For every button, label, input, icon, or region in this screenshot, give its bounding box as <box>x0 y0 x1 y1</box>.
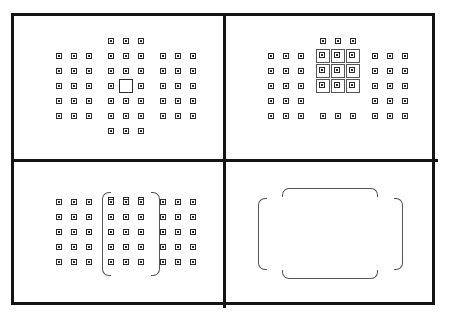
af-point-stage-bottom-left <box>14 162 223 305</box>
af-point-dot <box>71 53 77 59</box>
af-point-dot <box>56 68 62 74</box>
af-point-dot <box>56 229 62 235</box>
af-point-dot <box>334 52 340 58</box>
af-point-dot <box>160 83 166 89</box>
af-point-dot <box>175 98 181 104</box>
af-point-dot <box>349 52 355 58</box>
af-point-dot <box>71 199 77 205</box>
af-point-dot <box>71 214 77 220</box>
af-point-dot <box>320 38 326 44</box>
af-point-dot <box>86 214 92 220</box>
af-point-dot <box>138 199 144 205</box>
af-point-dot <box>123 244 129 250</box>
af-point-dot <box>190 53 196 59</box>
af-point-dot <box>175 214 181 220</box>
af-point-dot <box>402 98 408 104</box>
af-point-dot <box>190 68 196 74</box>
af-point-dot <box>298 53 304 59</box>
af-point-dot <box>71 229 77 235</box>
af-point-dot <box>190 244 196 250</box>
af-point-dot <box>283 53 289 59</box>
diagram-frame <box>11 13 435 305</box>
af-point-dot <box>160 259 166 265</box>
af-point-dot <box>138 244 144 250</box>
af-point-dot <box>86 53 92 59</box>
af-point-dot <box>175 53 181 59</box>
af-point-dot <box>71 244 77 250</box>
af-point-dot <box>372 113 378 119</box>
af-point-dot <box>138 259 144 265</box>
af-point-dot <box>160 53 166 59</box>
af-point-dot <box>175 244 181 250</box>
af-point-dot <box>320 113 326 119</box>
quadrant-wide-zone-af <box>226 162 435 305</box>
af-point-dot <box>350 113 356 119</box>
af-point-selected-box <box>316 49 330 63</box>
af-point-stage-top-right <box>226 16 435 159</box>
af-point-dot <box>190 113 196 119</box>
af-point-dot <box>160 244 166 250</box>
af-point-dot <box>160 214 166 220</box>
af-point-dot <box>86 229 92 235</box>
af-point-selected-box <box>316 79 330 93</box>
af-point-dot <box>283 113 289 119</box>
af-point-dot <box>108 38 114 44</box>
af-point-dot <box>372 83 378 89</box>
af-point-dot <box>138 83 144 89</box>
af-point-dot <box>123 53 129 59</box>
af-point-dot <box>108 113 114 119</box>
af-point-dot <box>56 113 62 119</box>
af-point-selected-box <box>316 64 330 78</box>
af-point-selected-box <box>346 64 360 78</box>
wide-zone-bracket-left <box>258 198 267 270</box>
af-point-dot <box>108 98 114 104</box>
af-point-dot <box>123 259 129 265</box>
af-point-dot <box>86 98 92 104</box>
af-point-selected-box <box>331 79 345 93</box>
af-point-dot <box>123 128 129 134</box>
af-point-dot <box>190 229 196 235</box>
af-point-dot <box>86 83 92 89</box>
af-point-dot <box>86 259 92 265</box>
af-point-dot <box>372 68 378 74</box>
af-point-dot <box>298 68 304 74</box>
af-point-dot <box>160 68 166 74</box>
af-point-dot <box>138 113 144 119</box>
af-point-dot <box>71 259 77 265</box>
af-point-dot <box>190 98 196 104</box>
af-point-dot <box>123 214 129 220</box>
af-point-dot <box>56 98 62 104</box>
af-point-dot <box>138 128 144 134</box>
af-point-dot <box>86 113 92 119</box>
af-point-dot <box>56 199 62 205</box>
af-point-dot <box>319 52 325 58</box>
af-point-dot <box>56 244 62 250</box>
diagram-root <box>0 0 450 320</box>
af-point-dot <box>56 53 62 59</box>
af-point-dot <box>86 68 92 74</box>
af-point-dot <box>335 38 341 44</box>
zone-bracket-left <box>102 192 111 276</box>
af-point-dot <box>268 83 274 89</box>
af-point-dot <box>319 67 325 73</box>
af-point-dot <box>190 199 196 205</box>
af-point-dot <box>334 82 340 88</box>
af-point-dot <box>71 113 77 119</box>
af-point-selected-box <box>346 49 360 63</box>
af-point-dot <box>298 113 304 119</box>
af-point-dot <box>387 113 393 119</box>
af-point-dot <box>268 98 274 104</box>
af-point-dot <box>190 214 196 220</box>
af-point-dot <box>71 68 77 74</box>
af-point-selected-box <box>346 79 360 93</box>
af-point-dot <box>138 214 144 220</box>
af-point-dot <box>349 67 355 73</box>
af-point-dot <box>71 83 77 89</box>
af-point-dot <box>175 113 181 119</box>
af-point-dot <box>350 38 356 44</box>
af-point-dot <box>387 53 393 59</box>
af-point-dot <box>138 68 144 74</box>
af-point-dot <box>387 98 393 104</box>
af-point-dot <box>123 98 129 104</box>
af-point-dot <box>402 113 408 119</box>
